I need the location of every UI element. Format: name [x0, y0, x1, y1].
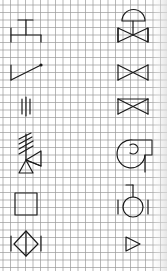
dome-valve-symbol	[118, 10, 148, 43]
circle-meter-symbol	[118, 185, 148, 217]
gate-valve-boxed-symbol	[118, 99, 148, 114]
centrifugal-fan-symbol	[117, 140, 152, 172]
hatched-valve-symbol	[19, 133, 41, 173]
t-junction-symbol	[11, 20, 41, 42]
triple-bars-symbol	[22, 97, 30, 116]
page-edge-shadow	[150, 0, 167, 271]
diagonal-line-symbol	[11, 63, 43, 80]
grid-worksheet	[0, 0, 167, 271]
